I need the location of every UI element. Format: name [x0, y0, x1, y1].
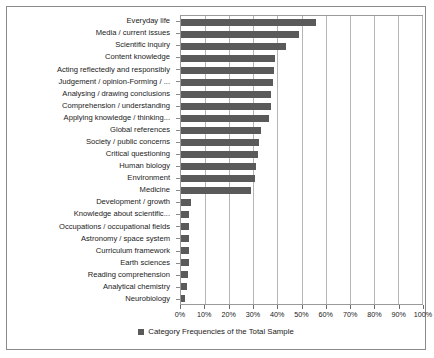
category-label: Society / public concerns: [7, 136, 174, 148]
category-label: Astronomy / space system: [7, 232, 174, 244]
bar: [181, 175, 255, 182]
bar: [181, 103, 271, 110]
legend-swatch-icon: [138, 329, 144, 335]
category-label: Environment: [7, 172, 174, 184]
bar-row: [181, 292, 422, 304]
bar-row: [181, 100, 422, 112]
bar-row: [181, 172, 422, 184]
value-tick: [399, 305, 400, 309]
bar: [181, 31, 299, 38]
category-label: Analysing / drawing conclusions: [7, 87, 174, 99]
bar: [181, 163, 256, 170]
chart-frame: Everyday lifeMedia / current issuesScien…: [6, 6, 426, 350]
category-label: Curriculum framework: [7, 244, 174, 256]
category-label: Judgement / opinion-Forming / ...: [7, 75, 174, 87]
chart-plot-wrapper: Everyday lifeMedia / current issuesScien…: [7, 7, 425, 349]
value-axis-label: 70%: [343, 310, 357, 319]
bar: [181, 19, 316, 26]
value-axis-label: 40%: [270, 310, 284, 319]
category-label: Scientific inquiry: [7, 39, 174, 51]
legend-label: Category Frequencies of the Total Sample: [148, 327, 293, 336]
gridline: [422, 16, 423, 304]
bar-row: [181, 136, 422, 148]
value-axis-label: 20%: [221, 310, 235, 319]
bar-row: [181, 76, 422, 88]
bar: [181, 235, 189, 242]
bar: [181, 259, 189, 266]
value-tick: [374, 305, 375, 309]
bar-row: [181, 244, 422, 256]
plot-area: [180, 15, 423, 305]
category-axis-labels: Everyday lifeMedia / current issuesScien…: [7, 15, 174, 305]
value-tick: [302, 305, 303, 309]
bar-row: [181, 112, 422, 124]
bar-row: [181, 268, 422, 280]
category-label: Neurobiology: [7, 293, 174, 305]
bar: [181, 115, 269, 122]
bar: [181, 295, 185, 302]
bar: [181, 139, 259, 146]
value-axis-label: 80%: [367, 310, 381, 319]
value-tick: [326, 305, 327, 309]
bar-row: [181, 64, 422, 76]
bar-row: [181, 148, 422, 160]
category-label: Media / current issues: [7, 27, 174, 39]
value-tick: [253, 305, 254, 309]
bar: [181, 199, 191, 206]
bar-row: [181, 280, 422, 292]
value-axis-label: 50%: [294, 310, 308, 319]
bar-row: [181, 196, 422, 208]
value-tick: [277, 305, 278, 309]
category-label: Analytical chemistry: [7, 281, 174, 293]
value-axis-label: 0%: [175, 310, 185, 319]
category-label: Comprehension / understanding: [7, 100, 174, 112]
bar-row: [181, 52, 422, 64]
value-axis-label: 100%: [414, 310, 432, 319]
bar-row: [181, 40, 422, 52]
category-label: Acting reflectedly and responsibly: [7, 63, 174, 75]
chart-legend: Category Frequencies of the Total Sample: [7, 327, 425, 336]
bar-series: [181, 16, 422, 304]
bar: [181, 187, 251, 194]
value-axis-label: 10%: [197, 310, 211, 319]
bar-row: [181, 16, 422, 28]
bar: [181, 211, 189, 218]
bar: [181, 79, 273, 86]
bar-row: [181, 124, 422, 136]
category-label: Content knowledge: [7, 51, 174, 63]
value-axis-label: 90%: [391, 310, 405, 319]
bar-row: [181, 88, 422, 100]
category-label: Earth sciences: [7, 257, 174, 269]
category-label: Occupations / occupational fields: [7, 220, 174, 232]
bar-row: [181, 220, 422, 232]
value-axis-labels: 0%10%20%30%40%50%60%70%80%90%100%: [180, 310, 423, 322]
category-label: Medicine: [7, 184, 174, 196]
bar-row: [181, 232, 422, 244]
bar: [181, 55, 275, 62]
value-tick: [229, 305, 230, 309]
bar: [181, 247, 189, 254]
category-label: Human biology: [7, 160, 174, 172]
value-tick: [423, 305, 424, 309]
bar: [181, 127, 261, 134]
category-label: Reading comprehension: [7, 269, 174, 281]
category-label: Everyday life: [7, 15, 174, 27]
bar: [181, 43, 286, 50]
bar: [181, 151, 258, 158]
bar: [181, 283, 187, 290]
bar-row: [181, 256, 422, 268]
category-label: Critical questioning: [7, 148, 174, 160]
category-label: Knowledge about scientific...: [7, 208, 174, 220]
value-axis-label: 60%: [319, 310, 333, 319]
value-axis-ticks: [180, 305, 423, 309]
value-tick: [180, 305, 181, 309]
category-label: Applying knowledge / thinking...: [7, 112, 174, 124]
value-tick: [204, 305, 205, 309]
bar-row: [181, 160, 422, 172]
bar-row: [181, 28, 422, 40]
bar-row: [181, 208, 422, 220]
bar-row: [181, 184, 422, 196]
category-label: Development / growth: [7, 196, 174, 208]
category-label: Global references: [7, 124, 174, 136]
bar: [181, 67, 274, 74]
